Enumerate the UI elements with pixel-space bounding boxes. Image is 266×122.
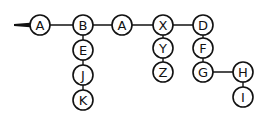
- node-label: B: [79, 18, 88, 33]
- node-label: Y: [158, 41, 167, 56]
- node-j: J: [73, 65, 93, 85]
- node-g: G: [193, 62, 213, 82]
- node-f: F: [193, 38, 213, 58]
- node-label: G: [198, 65, 208, 80]
- node-label: J: [80, 68, 85, 83]
- node-label: E: [79, 43, 87, 58]
- node-x: X: [153, 15, 173, 35]
- node-d: D: [193, 15, 213, 35]
- node-a: A: [112, 15, 132, 35]
- entry-arrow-icon: [14, 23, 30, 27]
- tree-diagram: ABEJKAXYZDFGHI: [0, 0, 266, 122]
- node-label: I: [241, 90, 245, 105]
- node-e: E: [73, 40, 93, 60]
- node-h: H: [233, 62, 253, 82]
- node-z: Z: [153, 62, 173, 82]
- node-label: A: [36, 18, 45, 33]
- node-k: K: [73, 90, 93, 110]
- node-label: A: [118, 18, 127, 33]
- edges: [40, 25, 243, 100]
- node-label: Z: [159, 65, 168, 80]
- node-a: A: [30, 15, 50, 35]
- node-b: B: [73, 15, 93, 35]
- node-label: X: [159, 18, 168, 33]
- node-label: K: [79, 93, 88, 108]
- nodes: ABEJKAXYZDFGHI: [30, 15, 253, 110]
- node-label: H: [238, 65, 248, 80]
- node-i: I: [233, 87, 253, 107]
- node-label: D: [198, 18, 208, 33]
- node-y: Y: [153, 38, 173, 58]
- node-label: F: [199, 41, 206, 56]
